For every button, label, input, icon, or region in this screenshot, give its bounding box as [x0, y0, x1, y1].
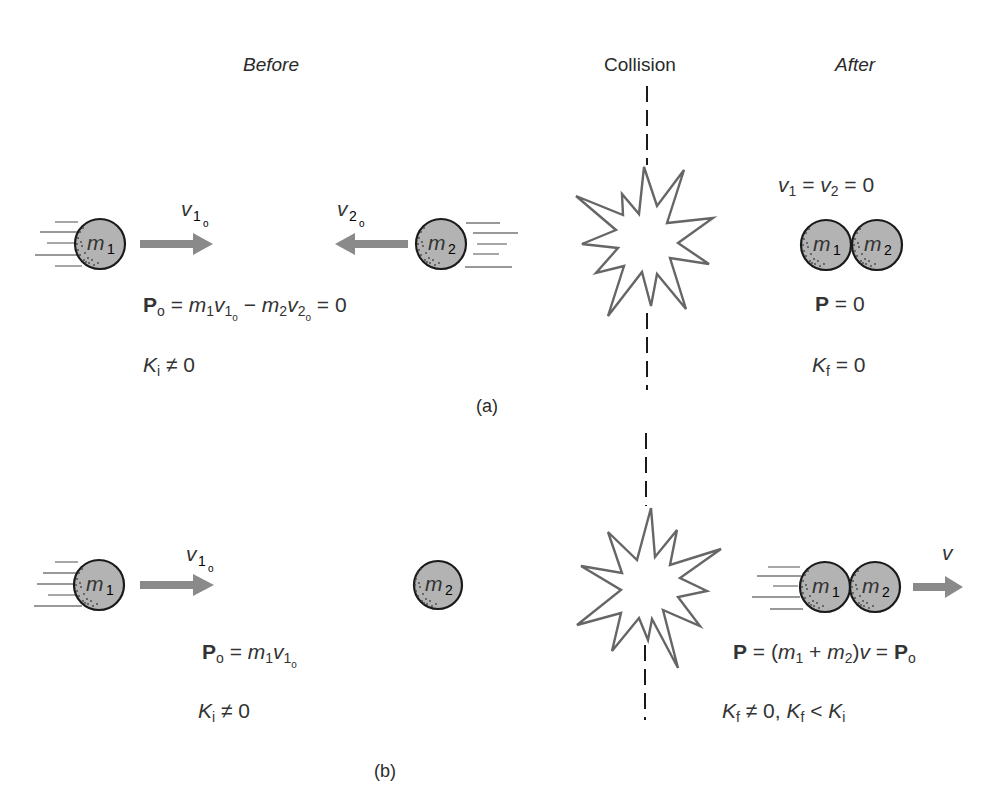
- velocity-arrow-v1o-a: [140, 233, 213, 255]
- svg-text:1: 1: [833, 242, 841, 258]
- caption-a: (a): [476, 396, 498, 416]
- panel-a: m 1 v 1 o v 2 o m 2 P: [35, 86, 902, 416]
- momentum-after-equation-b: P = (m1 + m2)v = Po: [733, 640, 916, 666]
- collision-diagram: Before Collision After m 1 v 1 o v 2: [0, 0, 1000, 786]
- svg-text:m: m: [813, 232, 831, 255]
- kinetic-energy-final-a: Kf = 0: [812, 353, 866, 379]
- kinetic-energy-initial-b: Ki ≠ 0: [198, 699, 250, 725]
- svg-text:m: m: [862, 574, 880, 597]
- svg-text:m: m: [86, 572, 104, 595]
- combined-ball-m2-a: m 2: [852, 220, 902, 270]
- momentum-equation-before-b: Po = m1v1o: [202, 640, 297, 670]
- svg-text:m: m: [428, 231, 446, 254]
- svg-text:o: o: [208, 563, 214, 574]
- collision-header: Collision: [604, 54, 676, 75]
- label-v1o-b: v 1 o: [186, 542, 214, 574]
- svg-text:o: o: [203, 218, 209, 229]
- velocity-arrow-v1o-b: [140, 574, 214, 596]
- combined-ball-m1-b: m 1: [800, 562, 850, 612]
- svg-text:1: 1: [106, 582, 114, 598]
- combined-ball-m2-b: m 2: [850, 562, 900, 612]
- collision-starburst-a: [576, 167, 713, 316]
- combined-ball-m1-a: m 1: [801, 220, 851, 270]
- kinetic-energy-final-b: Kf ≠ 0, Kf < Ki: [722, 699, 845, 725]
- momentum-equation-before-a: Po = m1v1o − m2v2o = 0: [143, 293, 347, 323]
- ball-m1-b: m 1: [74, 560, 124, 610]
- collision-starburst-b: [577, 508, 721, 668]
- ball-m1-a: m 1: [75, 219, 125, 269]
- svg-text:o: o: [359, 218, 365, 229]
- kinetic-energy-initial-a: Ki ≠ 0: [143, 353, 195, 379]
- svg-text:1: 1: [832, 584, 840, 600]
- before-header: Before: [243, 54, 299, 75]
- svg-text:m: m: [812, 574, 830, 597]
- svg-text:v: v: [186, 542, 198, 565]
- svg-text:m: m: [87, 231, 105, 254]
- momentum-after-equation-a: P = 0: [815, 292, 865, 315]
- svg-text:m: m: [425, 572, 443, 595]
- caption-b: (b): [374, 761, 396, 781]
- velocity-arrow-v2o-a: [335, 233, 408, 255]
- svg-text:2: 2: [445, 582, 453, 598]
- label-v1o-a: v 1 o: [181, 197, 209, 229]
- svg-text:m: m: [864, 232, 882, 255]
- speed-lines-ball2-a: [465, 223, 518, 267]
- label-v-final-b: v: [942, 541, 954, 564]
- svg-text:1: 1: [198, 553, 206, 569]
- label-v2o-a: v 2 o: [337, 197, 365, 229]
- svg-text:v: v: [337, 197, 349, 220]
- ball-m2-b: m 2: [414, 561, 462, 609]
- svg-text:1: 1: [107, 241, 115, 257]
- svg-text:2: 2: [448, 241, 456, 257]
- svg-text:1: 1: [193, 208, 201, 224]
- after-header: After: [834, 54, 876, 75]
- ball-m2-a: m 2: [416, 219, 466, 269]
- velocity-after-equation-a: v1 = v2 = 0: [778, 173, 874, 199]
- svg-text:v: v: [181, 197, 193, 220]
- panel-b: m 1 v 1 o m 2 Po = m1v1o Ki ≠ 0: [34, 433, 963, 781]
- svg-text:2: 2: [884, 242, 892, 258]
- velocity-arrow-v-b: [913, 576, 963, 598]
- svg-text:2: 2: [882, 584, 890, 600]
- speed-lines-combined-b: [752, 567, 803, 609]
- svg-text:2: 2: [349, 208, 357, 224]
